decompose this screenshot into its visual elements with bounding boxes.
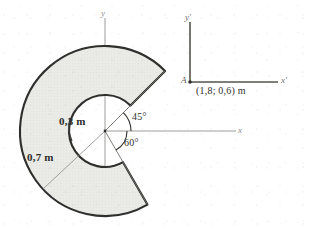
inset-coordinate-label: (1,8; 0,6) m [196,86,246,96]
angle-label-45: 45° [132,112,147,122]
main-x-axis-label: x [238,126,242,135]
inset-x-axis-label: x' [281,76,287,85]
figure-page: y x 0,3 m 0,7 m 45° 60° y' x' A (1,8; 0,… [0,0,312,230]
technical-drawing-canvas [0,0,312,230]
center-point [104,130,107,133]
outer-radius-label: 0,7 m [27,152,54,163]
inset-y-axis-label: y' [185,13,191,22]
inset-reference-frame [188,22,278,84]
inset-point-a-label: A [181,76,187,85]
inset-origin-point-a [188,80,192,84]
angle-arc-45 [123,113,131,131]
angle-label-60: 60° [124,138,139,148]
main-y-axis-label: y [101,9,105,18]
inner-radius-label: 0,3 m [59,116,86,127]
